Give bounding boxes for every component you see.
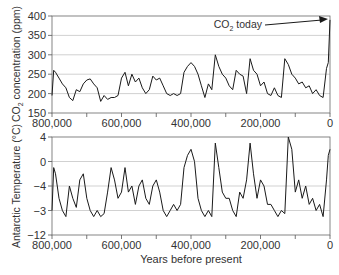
y-tick-label: 350: [28, 29, 46, 41]
y-tick-label: 0: [40, 156, 46, 168]
co2-x-ticks: 800,000600,000400,000200,0000: [32, 113, 333, 129]
y-tick-label: 4: [40, 131, 46, 143]
x-tick-label: 0: [327, 117, 333, 129]
y-tick-label: −3: [33, 205, 46, 217]
x-tick-label: 800,000: [32, 117, 72, 129]
y-tick-label: 200: [28, 88, 46, 100]
co2-today-annotation: CO2 today: [214, 18, 263, 32]
x-tick-label: 200,000: [241, 117, 281, 129]
x-axis-label: Years before present: [140, 253, 242, 265]
x-tick-label: 800,000: [32, 239, 72, 251]
y-tick-label: 300: [28, 49, 46, 61]
x-tick-label: 0: [327, 239, 333, 251]
co2-panel: 400350300250200150 800,000600,000400,000…: [10, 6, 333, 129]
x-tick-label: 600,000: [102, 239, 142, 251]
temperature-y-ticks: 40−4−3−12: [27, 131, 52, 241]
y-tick-label: 400: [28, 10, 46, 22]
x-tick-label: 600,000: [102, 117, 142, 129]
temperature-series-line: [52, 137, 330, 217]
temperature-y-axis-label: Antarctic Temperature (°C): [10, 124, 22, 248]
x-tick-label: 400,000: [171, 239, 211, 251]
y-tick-label: −4: [33, 180, 46, 192]
temperature-x-ticks: 800,000600,000400,000200,0000: [32, 235, 333, 251]
chart-canvas: 400350300250200150 800,000600,000400,000…: [0, 0, 339, 275]
arrow-icon: [265, 16, 328, 25]
x-tick-label: 400,000: [171, 117, 211, 129]
y-tick-label: 250: [28, 68, 46, 80]
x-tick-label: 200,000: [241, 239, 281, 251]
co2-y-ticks: 400350300250200150: [28, 10, 52, 119]
co2-y-axis-label: CO2 concentration (ppm): [10, 6, 24, 122]
co2-series-line: [52, 20, 330, 102]
temperature-panel: 40−4−3−12 800,000600,000400,000200,0000 …: [10, 124, 333, 265]
temperature-gridlines: [52, 162, 330, 211]
